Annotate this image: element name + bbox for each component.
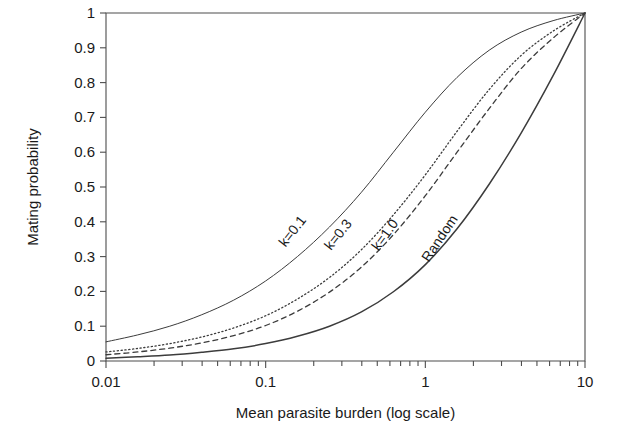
axis-titles: Mean parasite burden (log scale)Mating p…: [24, 128, 455, 421]
curve-k10: [106, 13, 585, 355]
mating-probability-chart: 0.010.1110 00.10.20.30.40.50.60.70.80.91…: [0, 0, 623, 446]
curve-k03: [106, 13, 585, 352]
y-tick-label: 0.5: [74, 178, 95, 195]
y-tick-label: 0.9: [74, 39, 95, 56]
y-tick-label: 0.8: [74, 74, 95, 91]
y-tick-label: 0.2: [74, 282, 95, 299]
x-tick-label: 0.1: [255, 373, 276, 390]
data-curves: [106, 13, 585, 358]
y-tick-label: 1: [87, 4, 95, 21]
y-tick-label: 0.3: [74, 248, 95, 265]
curve-label-random: Random: [418, 212, 461, 265]
curve-label-k03: k=0.3: [321, 216, 355, 253]
curve-random: [106, 13, 585, 358]
curve-k01: [106, 13, 585, 342]
curve-label-k01: k=0.1: [275, 212, 309, 249]
y-axis-title: Mating probability: [24, 128, 41, 246]
curve-label-k10: k=1.0: [368, 216, 401, 254]
y-tick-label: 0.7: [74, 108, 95, 125]
x-tick-label: 1: [421, 373, 429, 390]
x-tick-label: 10: [577, 373, 594, 390]
plot-frame: [106, 13, 585, 361]
figure-container: 0.010.1110 00.10.20.30.40.50.60.70.80.91…: [0, 0, 623, 446]
plot-box-border: [106, 13, 585, 361]
curve-labels: k=0.1k=0.3k=1.0Random: [275, 212, 461, 265]
y-tick-label: 0.1: [74, 317, 95, 334]
y-axis-ticks: 00.10.20.30.40.50.60.70.80.91: [74, 4, 106, 369]
x-tick-label: 0.01: [91, 373, 120, 390]
y-tick-label: 0.4: [74, 213, 95, 230]
y-tick-label: 0.6: [74, 143, 95, 160]
y-tick-label: 0: [87, 352, 95, 369]
x-axis-title: Mean parasite burden (log scale): [236, 404, 455, 421]
x-axis-ticks: 0.010.1110: [91, 361, 593, 390]
